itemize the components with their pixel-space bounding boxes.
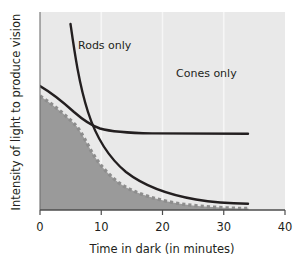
dark-adaptation-chart: 0 10 20 30 40 Time in dark (in minutes) … (0, 0, 304, 267)
x-tick-label-20: 20 (155, 220, 170, 234)
x-tick-label-0: 0 (36, 220, 43, 234)
y-axis-title: Intensity of light to produce vision (9, 14, 23, 211)
x-axis-title: Time in dark (in minutes) (89, 242, 235, 256)
x-tick-label-30: 30 (216, 220, 231, 234)
x-tick-label-10: 10 (94, 220, 109, 234)
x-tick-label-40: 40 (278, 220, 293, 234)
chart-svg: 0 10 20 30 40 Time in dark (in minutes) … (0, 0, 304, 267)
rods-only-label: Rods only (78, 39, 132, 52)
cones-only-label: Cones only (176, 67, 237, 80)
